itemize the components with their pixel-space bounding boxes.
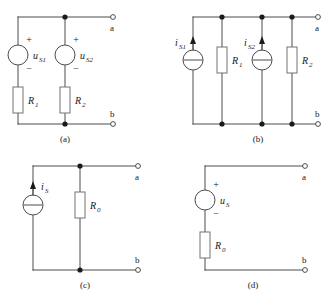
panel-a-caption: (a) xyxy=(60,134,70,144)
panel-b-node-bottom-3 xyxy=(289,121,294,126)
current-source-2-label-sub: S2 xyxy=(248,43,256,51)
panel-d: + − u S R 0 a b (d) xyxy=(195,164,307,290)
current-source-label-sub: S xyxy=(45,187,49,195)
panel-a-terminal-b-node xyxy=(111,122,116,127)
panel-c-caption: (c) xyxy=(80,280,90,290)
panel-b-resistor-2-label: R xyxy=(301,55,308,66)
panel-b-node-bottom-1 xyxy=(219,121,224,126)
panel-d-terminal-b-label: b xyxy=(302,255,307,265)
panel-c-terminal-b-node xyxy=(136,268,141,273)
current-source-2-arrow-icon xyxy=(259,36,265,44)
resistor-2-label-sub: 2 xyxy=(82,101,86,109)
panel-a-node-bottom xyxy=(62,121,67,126)
panel-b-terminal-a-label: a xyxy=(315,23,319,33)
panel-d-terminal-a-label: a xyxy=(302,172,306,182)
voltage-source-1-label-sub: S1 xyxy=(39,56,46,64)
voltage-source-1-minus: − xyxy=(26,63,32,74)
panel-b-node-top-3 xyxy=(289,14,294,19)
current-source-label: i xyxy=(41,181,44,192)
current-source-1-label-sub: S1 xyxy=(179,43,186,51)
panel-d-caption: (d) xyxy=(248,280,259,290)
current-source-2-label: i xyxy=(244,37,247,48)
panel-a-node-top xyxy=(62,14,67,19)
panel-d-voltage-source-label: u xyxy=(220,195,225,206)
panel-d-resistor-0-label-sub: 0 xyxy=(222,246,226,254)
panel-d-terminal-b-node xyxy=(303,268,308,273)
voltage-source-2-symbol xyxy=(55,45,75,65)
panel-d-resistor-0-label: R xyxy=(214,240,221,251)
voltage-source-1-symbol xyxy=(8,45,28,65)
resistor-1-label: R xyxy=(27,95,34,106)
panel-b-node-bottom-2 xyxy=(259,121,264,126)
resistor-1-symbol xyxy=(13,87,23,113)
voltage-source-1-plus: + xyxy=(26,34,32,45)
panel-c-resistor-0-symbol xyxy=(75,192,85,218)
panel-b-terminal-a-node xyxy=(316,15,321,20)
panel-d-voltage-source-label-sub: S xyxy=(226,201,230,209)
current-source-arrow-icon xyxy=(30,181,36,189)
panel-a-terminal-b-label: b xyxy=(110,109,115,119)
panel-c-node-top xyxy=(77,163,82,168)
panel-d-terminal-a-node xyxy=(303,164,308,169)
voltage-source-2-minus: − xyxy=(73,63,79,74)
panel-b-resistor-1-label: R xyxy=(231,55,238,66)
panel-b-node-top-2 xyxy=(259,14,264,19)
voltage-source-2-label: u xyxy=(80,50,85,61)
circuit-diagram-canvas: + − u S1 + − u S2 R 1 R 2 a b (a) xyxy=(0,0,330,298)
panel-b-caption: (b) xyxy=(253,134,264,144)
voltage-source-2-label-sub: S2 xyxy=(86,56,94,64)
panel-d-resistor-0-symbol xyxy=(200,232,210,258)
panel-a-terminal-a-label: a xyxy=(110,23,114,33)
panel-d-voltage-source-minus: − xyxy=(213,208,219,219)
circuit-figure-sheet: + − u S1 + − u S2 R 1 R 2 a b (a) xyxy=(0,0,330,298)
panel-c: i S R 0 a b (c) xyxy=(23,163,140,290)
panel-b: i S1 R 1 i S2 R 2 a b (b xyxy=(175,14,320,144)
panel-b-resistor-1-label-sub: 1 xyxy=(239,61,243,69)
panel-c-node-bottom xyxy=(77,267,82,272)
current-source-1-arrow-icon xyxy=(190,36,196,44)
current-source-1-label: i xyxy=(175,37,178,48)
voltage-source-1-label: u xyxy=(33,50,38,61)
panel-c-terminal-a-label: a xyxy=(135,172,139,182)
panel-a-terminal-a-node xyxy=(111,15,116,20)
panel-b-resistor-1-symbol xyxy=(217,47,227,73)
panel-b-resistor-2-label-sub: 2 xyxy=(309,61,313,69)
panel-b-node-top-1 xyxy=(219,14,224,19)
resistor-2-symbol xyxy=(60,87,70,113)
panel-c-terminal-a-node xyxy=(136,164,141,169)
panel-c-resistor-0-label: R xyxy=(89,200,96,211)
panel-b-terminal-b-node xyxy=(316,122,321,127)
resistor-2-label: R xyxy=(74,95,81,106)
panel-a: + − u S1 + − u S2 R 1 R 2 a b (a) xyxy=(8,14,115,144)
panel-c-resistor-0-label-sub: 0 xyxy=(97,206,101,214)
panel-c-terminal-b-label: b xyxy=(135,255,140,265)
resistor-1-label-sub: 1 xyxy=(35,101,39,109)
panel-d-voltage-source-symbol xyxy=(195,190,215,210)
voltage-source-2-plus: + xyxy=(73,34,79,45)
panel-d-voltage-source-plus: + xyxy=(213,179,219,190)
panel-b-terminal-b-label: b xyxy=(315,109,320,119)
panel-b-resistor-2-symbol xyxy=(287,47,297,73)
